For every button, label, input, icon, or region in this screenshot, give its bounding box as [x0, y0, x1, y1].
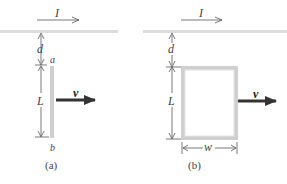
rectangular-loop — [183, 68, 236, 138]
caption-b: (b) — [188, 159, 201, 172]
long-wire-b — [143, 30, 287, 33]
panel-a: I d L a b v (a) — [0, 6, 118, 172]
long-wire-a — [0, 30, 118, 33]
width-label-b: w — [204, 140, 212, 154]
gap-label-a: d — [37, 42, 44, 56]
velocity-label-a: v — [73, 86, 79, 100]
panel-b: I d L v w (b) — [143, 6, 287, 172]
current-label-b: I — [198, 6, 204, 20]
current-label-a: I — [54, 6, 60, 20]
end-label-b: b — [50, 142, 55, 153]
gap-label-b: d — [168, 42, 175, 56]
diagram-canvas: I d L a b v (a) I d — [0, 0, 287, 184]
caption-a: (a) — [45, 159, 58, 172]
length-label-b: L — [167, 94, 175, 108]
end-label-a: a — [50, 54, 55, 65]
rod — [50, 66, 54, 138]
velocity-label-b: v — [253, 87, 259, 101]
length-label-a: L — [36, 94, 44, 108]
